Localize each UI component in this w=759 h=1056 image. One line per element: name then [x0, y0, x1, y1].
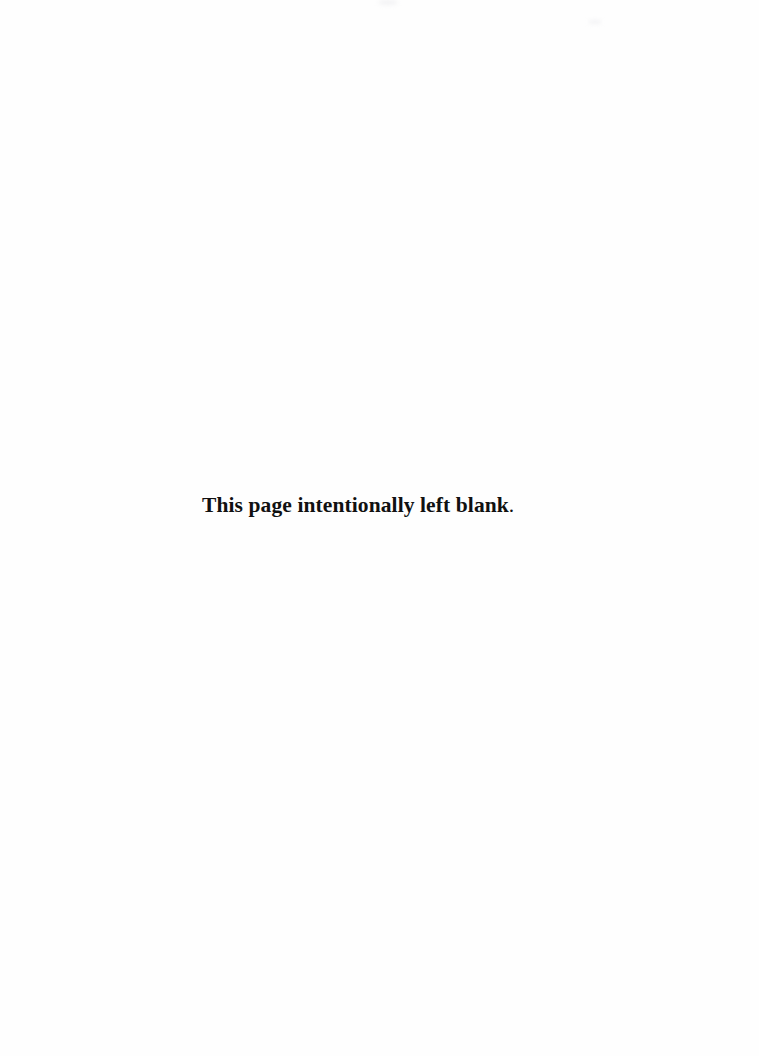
blank-page-notice-period: .	[509, 493, 514, 517]
blank-page-notice-text: This page intentionally left blank	[202, 493, 509, 517]
document-page: This page intentionally left blank.	[0, 0, 759, 1056]
scan-artifact	[378, 0, 398, 5]
scan-artifact	[588, 20, 602, 24]
blank-page-notice: This page intentionally left blank.	[202, 492, 514, 518]
